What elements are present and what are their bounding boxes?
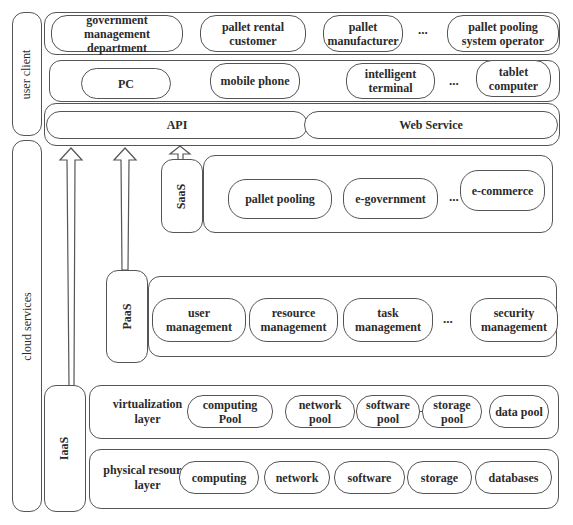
paas-ellipsis: ... (443, 311, 453, 327)
saas-label: SaaS (174, 183, 189, 208)
saas-ellipsis: ... (449, 189, 459, 205)
virt-data-pool: data pool (489, 395, 549, 428)
paas-task-management: task management (343, 298, 433, 342)
virt-network-pool: network pool (285, 395, 355, 428)
virt-storage-pool: storage pool (422, 395, 482, 428)
iaas-label-box: IaaS (44, 385, 86, 512)
phys-software: software (334, 461, 405, 494)
iaas-up-arrow (60, 148, 82, 386)
virt-computing-pool: computing Pool (187, 395, 273, 428)
virt-software-pool: software pool (356, 395, 420, 428)
saas-label-box: SaaS (161, 159, 203, 233)
saas-pallet-pooling: pallet pooling (228, 179, 332, 219)
saas-e-government: e-government (343, 178, 438, 219)
saas-e-commerce: e-commerce (460, 170, 545, 211)
phys-computing: computing (179, 461, 259, 494)
phys-network: network (264, 461, 330, 494)
paas-user-management: user management (152, 298, 246, 342)
phys-storage: storage (407, 461, 472, 494)
paas-label-box: PaaS (106, 270, 148, 363)
saas-up-arrow (170, 146, 190, 160)
paas-security-management: security management (470, 298, 558, 342)
paas-resource-management: resource management (249, 298, 338, 342)
phys-databases: databases (475, 461, 552, 494)
virtualization-layer-label: virtualization layer (100, 397, 195, 427)
paas-up-arrow (114, 148, 136, 270)
iaas-label: IaaS (58, 437, 73, 460)
paas-label: PaaS (119, 303, 134, 329)
